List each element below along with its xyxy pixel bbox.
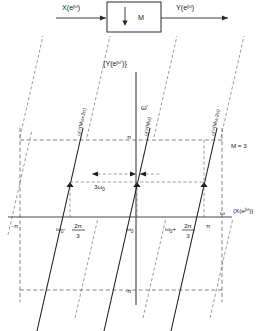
span-label: 3ω0 <box>94 183 105 192</box>
replica-line-extensions <box>8 36 244 318</box>
param-label: M = 3 <box>231 142 247 149</box>
span-arrow-right-outer <box>140 172 146 177</box>
plot-title: {Y(ejω')} <box>103 59 127 68</box>
figure-svg: X(ejω) M Y(ejω) {Y(ejω')} <box>0 0 272 331</box>
ext-line-left-upper <box>87 36 110 137</box>
xtick3-denominator: 3 <box>186 232 190 239</box>
downsampler-block <box>107 2 161 32</box>
line-center-label: ω'=(Mω) <box>142 116 152 136</box>
ext-line-center-lower <box>143 218 166 318</box>
ytick-pi-positive: π <box>127 133 131 140</box>
plot-title-main: {Y(e <box>103 59 117 68</box>
span-arrow-left <box>92 172 98 177</box>
ext-line-right-upper <box>221 36 244 137</box>
input-signal-label: X(ejω) <box>62 3 80 12</box>
haxis-fn-main: {X(e <box>233 207 245 214</box>
downward-arrow-icon <box>122 7 127 26</box>
input-arrow <box>56 16 106 21</box>
xtick-pi: π <box>206 222 210 229</box>
input-label-close: ) <box>78 3 80 12</box>
input-label-main: X(e <box>62 3 73 12</box>
line-label-right: ω'=(Mω-2π) <box>209 108 221 136</box>
line-left-label: ω'=(Mω+2π) <box>75 107 87 136</box>
line-right-label: ω'=(Mω-2π) <box>209 108 221 136</box>
span-arrow-right-inner <box>130 172 136 177</box>
svg-text:{X(ejω)}: {X(ejω)} <box>233 207 253 214</box>
xtick3-numerator: 2π <box>184 222 192 229</box>
xtick-omega0-minus-2pi-over-3: ω0- 2π 3 <box>56 222 85 239</box>
block-diagram: X(ejω) M Y(ejω) <box>56 2 228 32</box>
ext-line-center-upper <box>154 36 177 137</box>
svg-text:ω0-: ω0- <box>56 225 66 234</box>
ext-line-right-lower <box>210 218 233 318</box>
svg-text:Y(ejω): Y(ejω) <box>176 3 194 12</box>
plot-title-close: )} <box>122 59 127 68</box>
line-label-left: ω'=(Mω+2π) <box>75 107 87 136</box>
haxis-fn-close: )} <box>249 207 253 214</box>
ext-line-farleft-upper <box>20 36 43 137</box>
ytick-pi-negative: -π <box>125 287 131 294</box>
output-signal-label: Y(ejω) <box>176 3 194 12</box>
figure-root: X(ejω) M Y(ejω) {Y(ejω')} <box>0 0 272 331</box>
xtick-omega0: ω0 <box>126 225 134 234</box>
output-arrow <box>161 16 228 21</box>
main-plot: ω' ω {X(ejω)} π -π <box>8 36 253 331</box>
x-tick-labels: -π ω0- 2π 3 ω0 ω0+ 2π 3 <box>12 222 210 239</box>
xtick1-denominator: 3 <box>76 232 80 239</box>
xtick-minus-pi: -π <box>12 222 18 229</box>
line-label-center: ω'=(Mω) <box>142 116 152 136</box>
horizontal-axis-function-label: {X(ejω)} <box>233 207 253 214</box>
svg-text:ω0+: ω0+ <box>165 225 177 234</box>
line-center-solid <box>171 128 217 331</box>
horizontal-axis-label: ω <box>220 209 225 216</box>
output-label-close: ) <box>192 3 194 12</box>
vertical-axis-label: ω' <box>141 103 149 112</box>
intersection-markers <box>66 140 207 217</box>
decimation-factor-label: M <box>138 13 144 22</box>
output-label-main: Y(e <box>176 3 187 12</box>
xtick-omega0-plus-2pi-over-3: ω0+ 2π 3 <box>165 222 195 239</box>
xtick1-numerator: 2π <box>74 222 82 229</box>
svg-text:{Y(ejω')}: {Y(ejω')} <box>103 59 127 68</box>
svg-text:X(ejω): X(ejω) <box>62 3 80 12</box>
